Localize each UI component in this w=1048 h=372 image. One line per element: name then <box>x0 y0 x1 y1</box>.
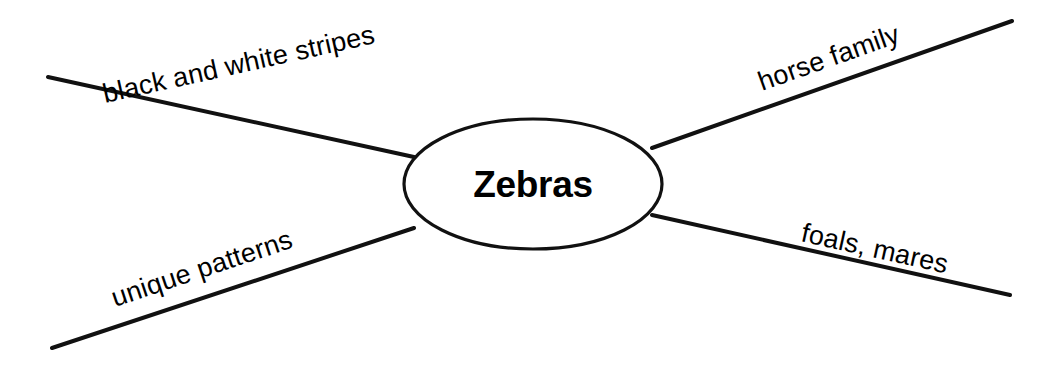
center-node-label: Zebras <box>473 164 593 205</box>
branch-label-black-and-white-stripes: black and white stripes <box>100 19 378 108</box>
concept-map-canvas: Zebras black and white stripes horse fam… <box>0 0 1048 372</box>
concept-map-diagram: Zebras black and white stripes horse fam… <box>0 0 1048 372</box>
branch-label-foals-mares: foals, mares <box>799 218 951 280</box>
